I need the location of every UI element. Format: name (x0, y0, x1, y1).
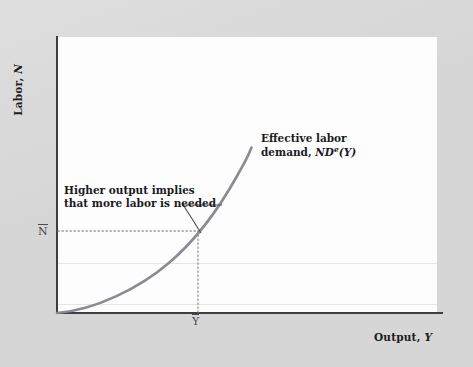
x-axis-tick-label-ybar: Y (192, 314, 199, 328)
curve-label-effective-labor-demand: Effective labor demand, NDe(Y) (261, 131, 356, 159)
x-axis-tick-symbol: Y (192, 314, 199, 328)
curve-label-argument: (Y) (339, 146, 356, 158)
x-axis-title: Output, Y (374, 331, 432, 343)
y-axis-title: Labor, N (12, 64, 24, 116)
y-axis-tick-symbol: N (38, 224, 48, 238)
curve-label-prefix: demand, (261, 146, 315, 158)
curve-label-line-1: Effective labor (261, 131, 356, 145)
scan-artifact-line (56, 263, 437, 264)
y-axis-line (56, 36, 58, 314)
curve-label-line-2: demand, NDe(Y) (261, 145, 356, 159)
x-axis-title-text: Output, (374, 331, 424, 343)
chart-figure: Labor, N Output, Y N Y Higher output imp… (0, 0, 473, 367)
scan-artifact-line (56, 304, 437, 305)
plot-area (56, 37, 437, 313)
x-axis-title-symbol: Y (424, 331, 432, 343)
y-axis-tick-label-nbar: N (38, 224, 48, 238)
annotation-line-1: Higher output implies (64, 184, 216, 197)
annotation-line-2: that more labor is needed (64, 197, 216, 210)
y-axis-title-text: Labor, (12, 74, 24, 116)
y-axis-title-symbol: N (12, 64, 24, 74)
curve-label-symbol: ND (315, 146, 334, 158)
x-axis-line (56, 312, 443, 314)
annotation-higher-output: Higher output implies that more labor is… (64, 184, 216, 210)
